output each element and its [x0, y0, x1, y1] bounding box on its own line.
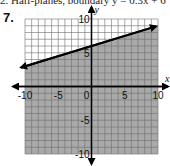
y-tick-label: -10 — [75, 149, 90, 160]
y-tick-label: 10 — [78, 14, 90, 25]
x-axis-label: x — [164, 73, 170, 84]
x-tick-label: 10 — [152, 90, 164, 101]
y-tick-label: -5 — [81, 115, 90, 126]
y-axis-label: y — [94, 4, 100, 15]
x-tick-label: 0 — [84, 90, 90, 101]
x-tick-label: 5 — [122, 90, 128, 101]
y-tick-label: 5 — [84, 48, 90, 59]
x-tick-label: -5 — [54, 90, 63, 101]
x-tick-label: -10 — [18, 90, 33, 101]
inequality-graph: -10-50510105-5-10xy — [0, 0, 170, 166]
